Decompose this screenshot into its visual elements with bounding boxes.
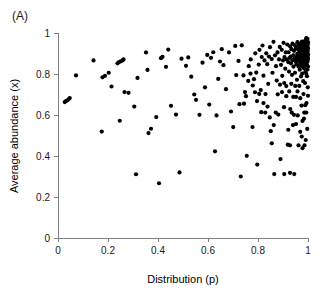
- data-point: [221, 63, 225, 67]
- data-point: [207, 102, 211, 106]
- y-axis-ticks: 00.20.40.60.81: [36, 28, 58, 244]
- data-point: [300, 146, 304, 150]
- data-point: [270, 71, 274, 75]
- data-point: [287, 69, 291, 73]
- data-point: [100, 130, 104, 134]
- data-point: [268, 45, 272, 49]
- data-point: [283, 67, 287, 71]
- data-point: [246, 79, 250, 83]
- y-tick-label: 1: [44, 28, 50, 39]
- data-point: [244, 94, 248, 98]
- data-point: [298, 130, 302, 134]
- data-point: [303, 81, 307, 85]
- data-point: [294, 122, 298, 126]
- y-tick-label: 0: [44, 233, 50, 244]
- data-point: [257, 62, 261, 66]
- data-point: [300, 134, 304, 138]
- data-point: [268, 115, 272, 119]
- data-point: [279, 63, 283, 67]
- data-point: [305, 74, 309, 78]
- data-point: [291, 95, 295, 99]
- data-point: [177, 170, 181, 174]
- data-point: [134, 172, 138, 176]
- data-point: [269, 129, 273, 133]
- data-point: [220, 47, 224, 51]
- data-points-group: [63, 36, 310, 185]
- data-point: [227, 50, 231, 54]
- data-point: [272, 172, 276, 176]
- data-point: [205, 53, 209, 57]
- data-point: [260, 55, 264, 59]
- data-point: [107, 71, 111, 75]
- data-point: [260, 43, 264, 47]
- data-point: [306, 46, 310, 50]
- x-tick-label: 0.2: [101, 245, 115, 256]
- data-point: [275, 50, 279, 54]
- data-point: [135, 76, 139, 80]
- data-point: [74, 73, 78, 77]
- data-point: [186, 55, 190, 59]
- data-point: [239, 174, 243, 178]
- data-point: [290, 110, 294, 114]
- data-point: [281, 41, 285, 45]
- x-tick-label: 1: [305, 245, 311, 256]
- data-point: [286, 50, 290, 54]
- data-point: [233, 44, 237, 48]
- data-point: [277, 57, 281, 61]
- data-point: [270, 141, 274, 145]
- data-point: [306, 52, 310, 56]
- data-point: [286, 128, 290, 132]
- data-point: [231, 125, 235, 129]
- data-point: [278, 83, 282, 87]
- data-point: [305, 127, 309, 131]
- data-point: [197, 113, 201, 117]
- data-point: [154, 115, 158, 119]
- data-point: [275, 78, 279, 82]
- data-point: [257, 48, 261, 52]
- data-point: [68, 96, 72, 100]
- data-point: [265, 62, 269, 66]
- data-point: [287, 89, 291, 93]
- y-tick-label: 0.8: [36, 69, 50, 80]
- data-point: [304, 110, 308, 114]
- data-point: [293, 84, 297, 88]
- x-axis-title: Distribution (p): [147, 273, 219, 285]
- data-point: [209, 56, 213, 60]
- data-point: [288, 171, 292, 175]
- data-point: [262, 58, 266, 62]
- x-tick-label: 0.8: [251, 245, 265, 256]
- data-point: [282, 172, 286, 176]
- data-point: [259, 88, 263, 92]
- data-point: [245, 154, 249, 158]
- data-point: [289, 82, 293, 86]
- y-tick-label: 0.4: [36, 151, 50, 162]
- data-point: [306, 65, 310, 69]
- data-point: [248, 71, 252, 75]
- x-axis-ticks: 00.20.40.60.81: [55, 238, 311, 256]
- data-point: [122, 90, 126, 94]
- data-point: [242, 102, 246, 106]
- data-point: [109, 84, 113, 88]
- data-point: [194, 98, 198, 102]
- axes-group: [58, 33, 308, 238]
- data-point: [174, 112, 178, 116]
- figure-panel-a: (A) 00.20.40.60.81 00.20.40.60.81 Distri…: [0, 0, 327, 288]
- data-point: [299, 103, 303, 107]
- data-point: [288, 143, 292, 147]
- data-point: [296, 113, 300, 117]
- data-point: [149, 127, 153, 131]
- data-point: [301, 92, 305, 96]
- data-point: [282, 81, 286, 85]
- data-point: [184, 64, 188, 68]
- scatter-plot: 00.20.40.60.81 00.20.40.60.81 Distributi…: [0, 0, 327, 288]
- data-point: [218, 59, 222, 63]
- data-point: [253, 90, 257, 94]
- data-point: [234, 73, 238, 77]
- data-point: [254, 70, 258, 74]
- data-point: [304, 138, 308, 142]
- data-point: [146, 131, 150, 135]
- data-point: [306, 85, 310, 89]
- data-point: [280, 48, 284, 52]
- data-point: [270, 57, 274, 61]
- data-point: [261, 74, 265, 78]
